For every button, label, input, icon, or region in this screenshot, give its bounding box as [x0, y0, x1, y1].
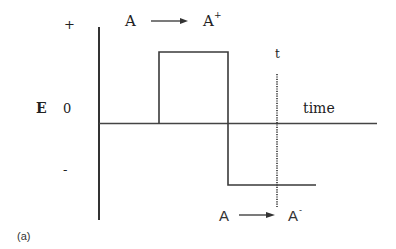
time-marker-label: t	[275, 47, 280, 61]
y-tick-plus: +	[64, 17, 75, 32]
positive-step	[159, 52, 228, 124]
panel-label: (a)	[17, 230, 30, 242]
bottom-product-superscript: -	[299, 205, 302, 215]
y-tick-minus: -	[63, 162, 67, 177]
top-product: A	[202, 12, 214, 30]
potential-step-diagram: + E 0 - time t A A + A A - (a)	[0, 0, 396, 249]
top-reactant: A	[124, 12, 136, 30]
top-arrow-icon	[180, 18, 188, 24]
bottom-arrow-icon	[266, 212, 275, 218]
bottom-product: A	[288, 207, 298, 224]
negative-step	[228, 124, 316, 186]
y-tick-zero: 0	[63, 101, 71, 116]
x-axis-label: time	[303, 100, 335, 116]
y-axis-label: E	[36, 100, 47, 116]
bottom-reactant: A	[219, 207, 229, 224]
diagram-canvas: + E 0 - time t A A + A A - (a)	[0, 0, 396, 249]
top-product-superscript: +	[214, 10, 222, 20]
